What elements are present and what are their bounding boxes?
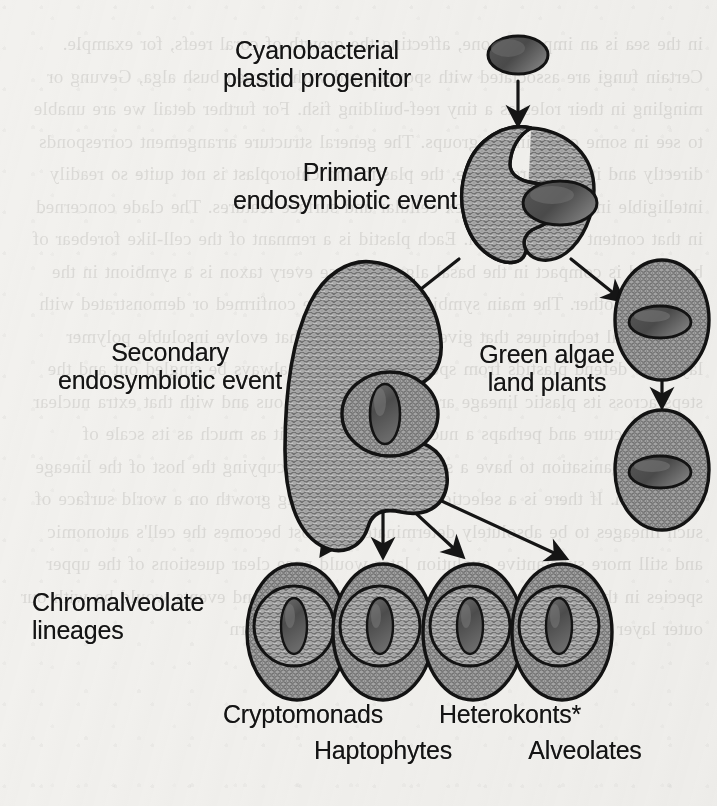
cell-green-algae-lower bbox=[615, 410, 709, 530]
cell-heterokonts bbox=[423, 564, 523, 700]
cell-secondary-endosymbiont bbox=[285, 262, 447, 551]
figure-page: in the sea is an important one, affectin… bbox=[0, 0, 717, 806]
label-primary-endosymbiotic-event: Primary endosymbiotic event bbox=[200, 158, 490, 214]
label-alveolates: Alveolates bbox=[480, 736, 690, 764]
cell-haptophytes bbox=[333, 564, 433, 700]
cell-alveolates bbox=[512, 564, 612, 700]
cell-cyanobacterial-progenitor bbox=[488, 36, 548, 74]
label-secondary-endosymbiotic-event: Secondary endosymbiotic event bbox=[20, 338, 320, 394]
label-heterokonts: Heterokonts* bbox=[400, 700, 620, 728]
arrow-primary-to-green-algae bbox=[571, 259, 622, 300]
label-cryptomonads: Cryptomonads bbox=[198, 700, 408, 728]
label-chromalveolate-lineages: Chromalveolate lineages bbox=[32, 588, 302, 644]
label-green-algae-land-plants: Green algae land plants bbox=[452, 340, 642, 396]
endosymbiosis-diagram bbox=[0, 0, 717, 806]
label-cyanobacterial-plastid-progenitor: Cyanobacterial plastid progenitor bbox=[172, 36, 462, 92]
label-haptophytes: Haptophytes bbox=[278, 736, 488, 764]
